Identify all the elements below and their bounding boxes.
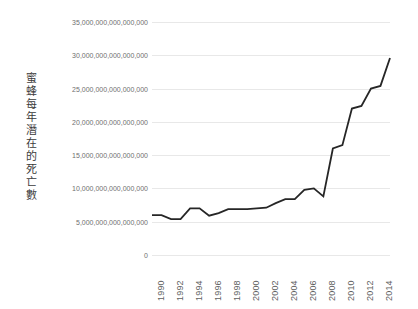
line-chart: 蜜蜂每年潛在的死亡數 35,000,000,000,000,00030,000,…: [0, 0, 418, 309]
x-axis-tick-label: 1990: [156, 280, 166, 301]
y-axis-tick-label: 35,000,000,000,000,000: [38, 19, 148, 26]
y-axis-tick-label: 30,000,000,000,000,000: [38, 52, 148, 59]
x-axis-tick-label: 2012: [365, 280, 375, 301]
x-axis-tick-label: 2010: [346, 280, 356, 301]
x-axis-tick-label: 1994: [194, 280, 204, 301]
x-axis-tick-label: 2000: [251, 280, 261, 301]
y-axis-tick-label: 25,000,000,000,000,000: [38, 85, 148, 92]
x-axis-tick-label: 2008: [327, 280, 337, 301]
series-line: [152, 22, 390, 255]
y-axis-tick-label: 5,000,000,000,000,000: [38, 218, 148, 225]
y-axis-tick-label: 0: [38, 252, 148, 259]
y-axis-tick-label: 20,000,000,000,000,000: [38, 118, 148, 125]
x-axis-tick-label: 1992: [175, 280, 185, 301]
x-axis-tick-label: 2014: [384, 280, 394, 301]
y-axis-tick-labels: 35,000,000,000,000,00030,000,000,000,000…: [38, 0, 148, 309]
y-axis-tick-label: 10,000,000,000,000,000: [38, 185, 148, 192]
x-axis-tick-label: 1996: [213, 280, 223, 301]
x-axis-tick-label: 1998: [232, 280, 242, 301]
x-axis-tick-label: 2002: [270, 280, 280, 301]
x-axis-tick-labels: 1990199219941996199820002002200420062008…: [152, 255, 390, 309]
x-axis-tick-label: 2006: [308, 280, 318, 301]
y-axis-tick-label: 15,000,000,000,000,000: [38, 152, 148, 159]
plot-area: [152, 22, 390, 255]
x-axis-tick-label: 2004: [289, 280, 299, 301]
